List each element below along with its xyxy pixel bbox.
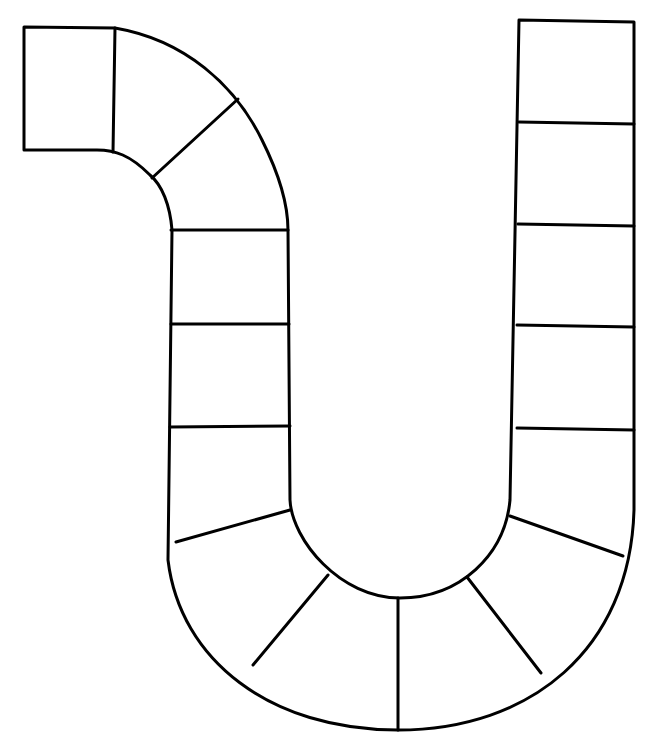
divider: [467, 577, 541, 673]
path-outer-edge: [24, 20, 634, 730]
divider: [510, 516, 623, 556]
game-board-path: [0, 0, 657, 742]
divider: [113, 28, 115, 152]
divider: [519, 122, 634, 124]
divider: [152, 99, 238, 178]
divider: [517, 428, 634, 430]
divider: [170, 426, 290, 427]
divider: [518, 224, 634, 226]
divider: [253, 575, 328, 665]
divider: [176, 510, 290, 542]
divider: [517, 325, 634, 327]
